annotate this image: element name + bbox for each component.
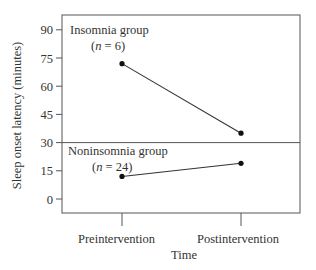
- y-tick-label: 0: [47, 193, 53, 207]
- data-point: [238, 161, 243, 166]
- y-tick-label: 75: [41, 52, 54, 66]
- series-noninsomnia: [119, 161, 243, 179]
- y-tick-label: 15: [41, 164, 54, 178]
- x-axis-ticks: [122, 213, 241, 226]
- insomnia-group-label: Insomnia group: [70, 23, 149, 38]
- insomnia-group-n: (n = 6): [91, 39, 125, 54]
- data-point: [238, 131, 243, 136]
- y-tick-label: 45: [41, 108, 54, 122]
- y-tick-label: 30: [41, 136, 54, 150]
- x-axis-label: Time: [171, 248, 197, 263]
- y-tick-label: 90: [41, 23, 54, 37]
- data-series: [119, 61, 243, 179]
- noninsomnia-group-n: (n = 24): [92, 160, 132, 175]
- data-point: [119, 61, 124, 66]
- x-tick-label-postintervention: Postintervention: [197, 232, 279, 247]
- y-axis-ticks: 0153045607590: [41, 23, 63, 206]
- series-insomnia: [119, 61, 243, 136]
- y-axis-label: Sleep onset latency (minutes): [10, 41, 25, 191]
- x-tick-label-preintervention: Preintervention: [78, 232, 155, 247]
- y-tick-label: 60: [41, 80, 54, 94]
- line-chart: 0153045607590: [0, 0, 316, 270]
- noninsomnia-group-label: Noninsomnia group: [68, 144, 168, 159]
